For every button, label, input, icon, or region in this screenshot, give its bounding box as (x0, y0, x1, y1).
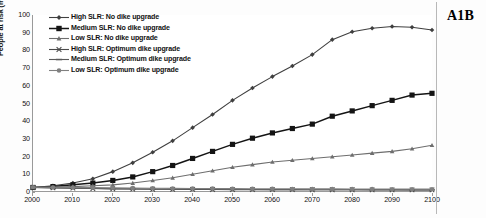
x-tick-label: 2040 (175, 196, 209, 204)
data-point-marker (350, 29, 355, 34)
x-tick-mark (72, 193, 73, 196)
panel-label: A1B (447, 8, 474, 24)
data-point-marker (330, 187, 334, 191)
x-tick-label: 2090 (375, 196, 409, 204)
data-point-marker (230, 142, 235, 147)
x-tick-mark (192, 193, 193, 196)
data-point-marker (71, 185, 75, 189)
data-point-marker (170, 163, 175, 168)
data-point-marker (31, 185, 35, 189)
legend-marker-square-icon (48, 24, 70, 33)
x-tick-label: 2100 (415, 196, 449, 204)
data-point-marker (410, 187, 414, 191)
x-tick-mark (152, 193, 153, 196)
data-point-marker (370, 103, 375, 108)
data-point-marker (409, 92, 414, 97)
legend-label: Medium SLR: Optimum dike upgrade (70, 55, 191, 64)
data-point-marker (430, 28, 435, 33)
legend-item-5[interactable]: Low SLR: Optimum dike upgrade (48, 66, 191, 75)
legend-item-1[interactable]: Medium SLR: No dike upgrade (48, 24, 191, 33)
data-point-marker (51, 185, 55, 189)
data-point-marker (56, 59, 62, 61)
legend-marker-circle-icon (48, 66, 70, 75)
y-axis-tick-marks (0, 15, 36, 192)
x-tick-label: 2060 (255, 196, 289, 204)
legend-label: Low SLR: No dike upgrade (70, 34, 158, 43)
data-point-marker (290, 126, 295, 131)
data-point-marker (410, 25, 415, 30)
legend-label: Low SLR: Optimum dike upgrade (70, 66, 179, 75)
data-point-marker (111, 169, 116, 174)
data-point-marker (429, 91, 434, 96)
x-tick-mark (432, 193, 433, 196)
data-point-marker (390, 187, 394, 191)
data-point-marker (330, 114, 335, 119)
data-point-marker (130, 161, 135, 166)
data-point-marker (190, 156, 195, 161)
data-point-marker (390, 24, 395, 29)
legend-marker-cross-icon (48, 45, 70, 54)
x-tick-mark (392, 193, 393, 196)
data-point-marker (310, 122, 315, 127)
legend-label: High SLR: Optimum dike upgrade (70, 45, 180, 54)
legend: High SLR: No dike upgradeMedium SLR: No … (48, 13, 191, 75)
x-tick-mark (312, 193, 313, 196)
legend-label: Medium SLR: No dike upgrade (70, 24, 170, 33)
data-point-marker (230, 186, 234, 190)
legend-marker-diamond-icon (48, 13, 70, 22)
legend-marker-dash-icon (48, 55, 70, 64)
series-1 (30, 91, 434, 190)
data-point-marker (130, 174, 135, 179)
data-point-marker (150, 150, 155, 155)
data-point-marker (290, 64, 295, 69)
data-point-marker (250, 187, 254, 191)
data-point-marker (430, 187, 434, 191)
data-point-marker (170, 186, 174, 190)
data-point-marker (370, 26, 375, 31)
data-point-marker (150, 169, 155, 174)
data-point-marker (190, 186, 194, 190)
x-tick-label: 2070 (295, 196, 329, 204)
figure-a1b: People at risk (millions per year) 01020… (0, 0, 486, 218)
data-point-marker (210, 186, 214, 190)
data-point-marker (270, 187, 274, 191)
data-point-marker (57, 15, 62, 20)
data-point-marker (91, 176, 96, 181)
data-point-marker (56, 25, 61, 30)
x-tick-label: 2010 (55, 196, 89, 204)
legend-item-4[interactable]: Medium SLR: Optimum dike upgrade (48, 55, 191, 64)
data-point-marker (390, 98, 395, 103)
x-tick-label: 2030 (135, 196, 169, 204)
x-axis-tick-labels: 2000201020202030204020502060207020802090… (32, 193, 432, 207)
x-tick-mark (272, 193, 273, 196)
data-point-marker (290, 187, 294, 191)
data-point-marker (250, 136, 255, 141)
x-tick-label: 2000 (15, 196, 49, 204)
x-tick-label: 2020 (95, 196, 129, 204)
data-point-marker (131, 186, 135, 190)
legend-item-2[interactable]: Low SLR: No dike upgrade (48, 34, 191, 43)
legend-label: High SLR: No dike upgrade (70, 13, 159, 22)
x-tick-mark (232, 193, 233, 196)
x-tick-label: 2080 (335, 196, 369, 204)
data-point-marker (110, 178, 115, 183)
data-point-marker (151, 186, 155, 190)
data-point-marker (270, 130, 275, 135)
data-point-marker (111, 186, 115, 190)
data-point-marker (91, 185, 95, 189)
data-point-marker (370, 187, 374, 191)
data-point-marker (350, 108, 355, 113)
x-tick-label: 2050 (215, 196, 249, 204)
legend-item-3[interactable]: High SLR: Optimum dike upgrade (48, 45, 191, 54)
x-tick-mark (352, 193, 353, 196)
data-point-marker (350, 187, 354, 191)
data-point-marker (310, 187, 314, 191)
legend-marker-triangle-icon (48, 34, 70, 43)
x-tick-mark (32, 193, 33, 196)
panel-divider (436, 2, 437, 214)
legend-item-0[interactable]: High SLR: No dike upgrade (48, 13, 191, 22)
x-tick-mark (112, 193, 113, 196)
data-point-marker (210, 149, 215, 154)
data-point-marker (270, 74, 275, 79)
data-point-marker (57, 68, 62, 73)
